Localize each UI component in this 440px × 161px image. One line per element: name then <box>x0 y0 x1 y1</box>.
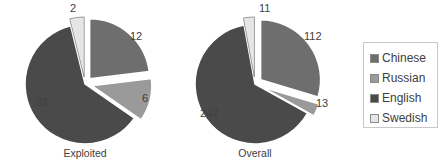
pie-title: Overall <box>238 147 271 159</box>
legend-item-chinese: Chinese <box>370 48 437 68</box>
data-label-russian: 13 <box>316 97 328 109</box>
legend-label-english: English <box>382 91 421 105</box>
pie-title: Exploited <box>63 147 106 159</box>
pie-chart-exploited: 126322Exploited <box>25 2 152 159</box>
legend-label-swedish: Swedish <box>382 111 427 125</box>
data-label-chinese: 112 <box>304 30 322 42</box>
legend-label-russian: Russian <box>382 71 425 85</box>
legend-swatch-swedish <box>370 114 379 123</box>
data-label-russian: 6 <box>142 92 148 104</box>
data-label-swedish: 2 <box>70 2 76 14</box>
pie-slice-chinese <box>90 19 150 79</box>
legend-item-russian: Russian <box>370 68 437 88</box>
legend-label-chinese: Chinese <box>382 51 426 65</box>
legend-swatch-english <box>370 94 379 103</box>
legend-item-swedish: Swedish <box>370 108 437 128</box>
pie-chart-overall: 1121324211Overall <box>195 2 328 159</box>
data-label-english: 32 <box>36 96 48 108</box>
chart-legend: Chinese Russian English Swedish <box>363 42 438 128</box>
legend-swatch-chinese <box>370 54 379 63</box>
data-label-english: 242 <box>200 107 218 119</box>
data-label-swedish: 11 <box>259 2 270 14</box>
legend-swatch-russian <box>370 74 379 83</box>
data-label-chinese: 12 <box>130 30 142 42</box>
legend-item-english: English <box>370 88 437 108</box>
